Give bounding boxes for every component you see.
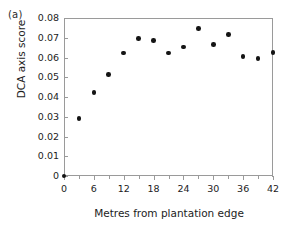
y-axis-tick bbox=[64, 117, 68, 118]
y-axis-tick bbox=[64, 38, 68, 39]
x-axis-tick-label: 42 bbox=[261, 183, 285, 194]
x-axis-tick-label: 36 bbox=[231, 183, 255, 194]
x-axis-tick bbox=[183, 176, 184, 180]
x-axis-tick bbox=[243, 176, 244, 180]
x-axis-tick-label: 12 bbox=[112, 183, 136, 194]
y-axis-tick-label: 0.01 bbox=[28, 150, 59, 161]
x-axis-tick-label: 24 bbox=[171, 183, 195, 194]
y-axis-tick-label: 0.07 bbox=[28, 32, 59, 43]
data-point bbox=[62, 174, 67, 179]
y-axis-tick bbox=[64, 137, 68, 138]
y-axis-tick bbox=[64, 77, 68, 78]
data-point bbox=[241, 54, 246, 59]
data-point bbox=[271, 50, 276, 55]
x-axis-tick-label: 30 bbox=[201, 183, 225, 194]
data-point bbox=[77, 116, 82, 121]
y-axis-tick-label: 0.06 bbox=[28, 52, 59, 63]
y-axis-tick bbox=[64, 97, 68, 98]
x-axis-tick bbox=[273, 176, 274, 180]
y-axis-tick-label: 0.03 bbox=[28, 111, 59, 122]
data-point bbox=[196, 26, 201, 31]
y-axis-tick bbox=[64, 18, 68, 19]
x-axis-tick bbox=[124, 176, 125, 180]
x-axis-tick bbox=[213, 176, 214, 180]
x-axis-minor-tick bbox=[258, 176, 259, 179]
x-axis-tick bbox=[94, 176, 95, 180]
data-point bbox=[226, 32, 231, 37]
x-axis-tick-label: 0 bbox=[52, 183, 76, 194]
data-point bbox=[136, 36, 141, 41]
y-axis-tick bbox=[64, 156, 68, 157]
y-axis-tick-label: 0 bbox=[28, 170, 59, 181]
data-point bbox=[211, 42, 216, 47]
y-axis-tick-label: 0.05 bbox=[28, 71, 59, 82]
y-axis-tick-label: 0.08 bbox=[28, 12, 59, 23]
x-axis-title: Metres from plantation edge bbox=[64, 207, 274, 219]
y-axis-title: DCA axis score bbox=[15, 0, 27, 129]
x-axis-minor-tick bbox=[198, 176, 199, 179]
data-point bbox=[92, 90, 97, 95]
y-axis-tick bbox=[64, 58, 68, 59]
data-point bbox=[151, 38, 156, 43]
x-axis-tick-label: 6 bbox=[82, 183, 106, 194]
plot-area bbox=[64, 18, 273, 176]
data-point bbox=[181, 45, 186, 50]
x-axis-minor-tick bbox=[79, 176, 80, 179]
x-axis-tick bbox=[154, 176, 155, 180]
data-point bbox=[256, 56, 261, 61]
data-point bbox=[106, 72, 111, 77]
x-axis-minor-tick bbox=[139, 176, 140, 179]
chart-figure: (a) DCA axis score Metres from plantatio… bbox=[0, 0, 297, 231]
y-axis-tick-label: 0.02 bbox=[28, 131, 59, 142]
x-axis-tick-label: 18 bbox=[142, 183, 166, 194]
x-axis-minor-tick bbox=[228, 176, 229, 179]
y-axis-tick-label: 0.04 bbox=[28, 91, 59, 102]
x-axis-minor-tick bbox=[169, 176, 170, 179]
x-axis-minor-tick bbox=[109, 176, 110, 179]
